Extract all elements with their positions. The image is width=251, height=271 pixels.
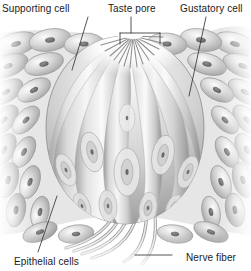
label-supporting-cell: Supporting cell bbox=[2, 3, 70, 14]
taste-bud-illustration bbox=[0, 0, 251, 271]
label-taste-pore: Taste pore bbox=[108, 3, 156, 14]
taste-bud-figure: Supporting cell Taste pore Gustatory cel… bbox=[0, 0, 251, 271]
label-nerve-fiber: Nerve fiber bbox=[186, 252, 236, 263]
label-gustatory-cell: Gustatory cell bbox=[180, 3, 243, 14]
label-epithelial-cells: Epithelial cells bbox=[14, 256, 79, 267]
